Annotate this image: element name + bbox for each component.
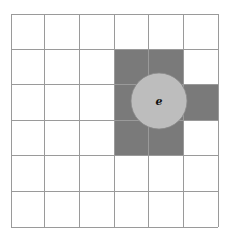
shaded-cell [183, 84, 218, 120]
entity-label: e [156, 95, 163, 108]
grid-diagram: e [0, 0, 227, 237]
shaded-cell [114, 120, 148, 155]
grid-lines [11, 14, 219, 228]
